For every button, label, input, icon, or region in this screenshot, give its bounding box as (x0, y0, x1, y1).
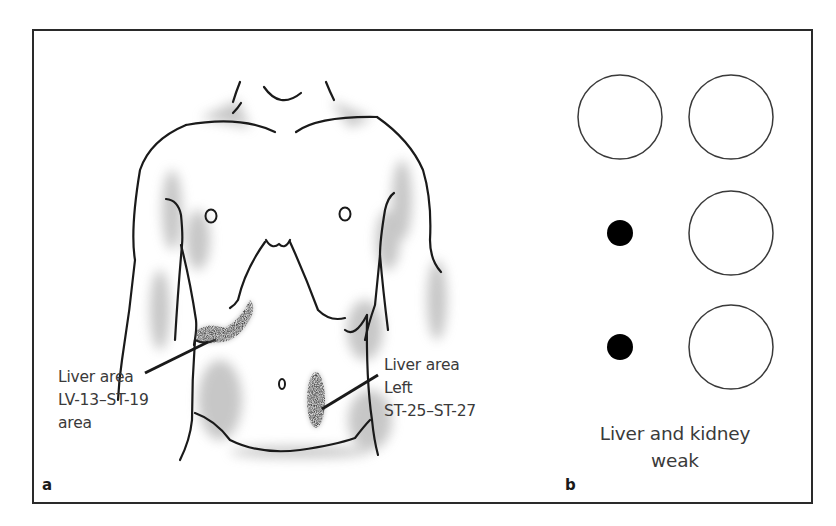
filled-dot-r3-left (607, 334, 633, 360)
label-line: ST-25–ST-27 (384, 400, 476, 423)
panel-letter-b: b (565, 476, 576, 494)
filled-dot-r2-left (607, 220, 633, 246)
label-line: Liver area (58, 366, 149, 389)
response-circle-grid (578, 75, 773, 389)
caption-line: Liver and kidney (565, 420, 785, 447)
leader-line-ribcage (145, 342, 208, 373)
label-liver-area-left: Liver area Left ST-25–ST-27 (384, 354, 476, 423)
open-circle-r3-right (689, 305, 773, 389)
label-line: Liver area (384, 354, 476, 377)
navel (279, 379, 285, 389)
open-circle-r2-right (689, 191, 773, 275)
label-line: LV-13–ST-19 (58, 389, 149, 412)
label-line: Left (384, 377, 476, 400)
label-line: area (58, 412, 149, 435)
panel-b-caption: Liver and kidney weak (565, 420, 785, 474)
caption-line: weak (565, 447, 785, 474)
open-circle-r1-right (689, 75, 773, 159)
open-circle-r1-left (578, 75, 662, 159)
panel-letter-a: a (42, 476, 52, 494)
liver-area-abdomen-marking (307, 372, 325, 428)
right-nipple (206, 210, 217, 223)
label-liver-area-ribcage: Liver area LV-13–ST-19 area (58, 366, 149, 435)
liver-area-ribcage-marking (197, 300, 253, 343)
left-nipple (340, 208, 351, 221)
